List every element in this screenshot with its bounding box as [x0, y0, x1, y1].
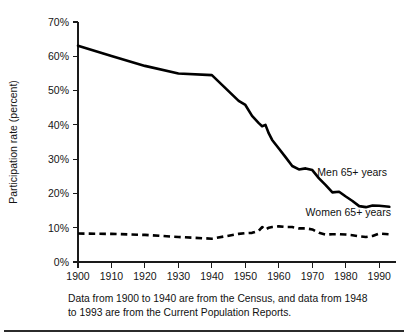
x-tick-label: 1900 [66, 270, 90, 282]
men-series-label: Men 65+ years [317, 166, 387, 178]
bottom-divider [4, 330, 404, 332]
x-tick-label: 1970 [301, 270, 325, 282]
x-tick-label: 1920 [133, 270, 157, 282]
women-series-label: Women 65+ years [306, 206, 391, 218]
y-tick-label: 10% [48, 222, 69, 234]
y-tick-label: 0% [54, 256, 69, 268]
x-tick-label: 1990 [368, 270, 392, 282]
caption-text: Data from 1900 to 1940 are from the Cens… [68, 292, 368, 320]
y-tick-label: 50% [48, 84, 69, 96]
series-line-women-65-years [78, 226, 389, 238]
x-tick-label: 1910 [100, 270, 124, 282]
x-tick-label: 1930 [167, 270, 191, 282]
chart-figure: 0%10%20%30%40%50%60%70% 1900191019201930… [0, 0, 408, 335]
x-tick-label: 1960 [267, 270, 291, 282]
y-tick-label: 60% [48, 50, 69, 62]
y-tick-label: 40% [48, 119, 69, 131]
x-axis: 1900191019201930194019501960197019801990 [66, 262, 396, 282]
x-tick-label: 1940 [200, 270, 224, 282]
y-tick-label: 30% [48, 153, 69, 165]
y-tick-label: 20% [48, 187, 69, 199]
y-axis: 0%10%20%30%40%50%60%70% [48, 16, 78, 268]
series-annotations: Men 65+ yearsWomen 65+ years [306, 166, 391, 218]
series-line-men-65-years [78, 46, 389, 207]
x-tick-label: 1980 [334, 270, 358, 282]
x-tick-label: 1950 [234, 270, 258, 282]
participation-rate-line-chart: 0%10%20%30%40%50%60%70% 1900191019201930… [0, 0, 408, 290]
y-axis-title: Participation rate (percent) [7, 80, 19, 204]
figure-caption: Data from 1900 to 1940 are from the Cens… [0, 292, 408, 320]
y-tick-label: 70% [48, 16, 69, 28]
